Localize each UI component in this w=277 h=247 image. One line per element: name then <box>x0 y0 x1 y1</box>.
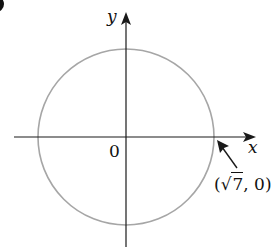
sqrt-radicand: 7 <box>231 172 243 194</box>
pointer-arrow-line <box>222 147 237 168</box>
pointer-arrowhead-icon <box>217 140 229 153</box>
point-close: , 0) <box>243 174 271 194</box>
circle-diagram <box>0 0 277 247</box>
point-open-paren: ( <box>214 174 221 194</box>
x-axis-label: x <box>248 139 258 156</box>
origin-label: 0 <box>109 143 120 160</box>
sqrt-expression: √7 <box>221 176 244 193</box>
y-axis-label: y <box>107 8 117 25</box>
point-annotation: (√7, 0) <box>214 176 272 193</box>
sqrt-icon: √ <box>221 174 232 194</box>
